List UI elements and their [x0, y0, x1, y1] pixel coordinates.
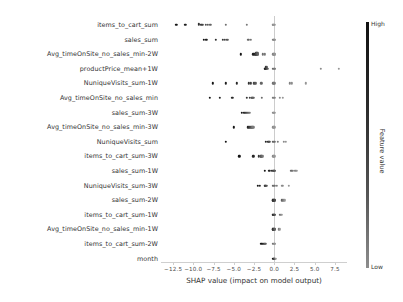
shap-point [240, 53, 242, 55]
feature-label: sales_sum [0, 36, 158, 44]
feature-label: month [0, 255, 158, 263]
colorbar-high-label: High [371, 20, 385, 27]
x-tick-label: −7.5 [206, 266, 220, 272]
shap-point [274, 68, 276, 70]
shap-point [275, 184, 277, 186]
shap-point [245, 24, 247, 26]
shap-point [282, 97, 284, 99]
feature-value-colorbar [366, 22, 369, 268]
feature-label: NuniqueVisits_sum-1W [0, 79, 158, 87]
shap-point [250, 82, 252, 84]
shap-point [224, 141, 226, 143]
shap-point [266, 68, 268, 70]
shap-point [231, 97, 233, 99]
shap-point [320, 68, 322, 70]
shap-point [238, 155, 240, 157]
x-tick-label: −5.0 [227, 266, 241, 272]
shap-point [274, 199, 276, 201]
feature-label: Avg_timeOnSite_no_sales_min-3W [0, 123, 158, 131]
shap-point [224, 82, 226, 84]
x-tick-label: 5.0 [310, 266, 320, 272]
shap-point [273, 82, 275, 84]
x-tick-label: −10.0 [184, 266, 202, 272]
shap-point [276, 141, 278, 143]
feature-label: Avg_timeOnSite_no_sales_min-1W [0, 225, 158, 233]
feature-label: Avg_timeOnSite_no_sales_min-2W [0, 50, 158, 58]
beeswarm-plot-area [161, 16, 347, 262]
feature-label: items_to_cart_sum-3W [0, 152, 158, 160]
feature-label: items_to_cart_sum-2W [0, 240, 158, 248]
colorbar-title: Feature value [378, 128, 386, 173]
shap-point [227, 38, 229, 40]
shap-point [249, 111, 251, 113]
shap-point [263, 53, 265, 55]
shap-point [184, 24, 186, 26]
shap-point [261, 97, 263, 99]
x-tick-mark [294, 262, 295, 265]
shap-summary-plot-figure: items_to_cart_sumsales_sumAvg_timeOnSite… [0, 0, 403, 302]
shap-point [338, 68, 340, 70]
shap-point [273, 97, 275, 99]
x-tick-label: 7.5 [330, 266, 340, 272]
shap-point [245, 97, 247, 99]
shap-point [263, 170, 265, 172]
shap-point [219, 97, 221, 99]
colorbar-low-label: Low [371, 263, 383, 270]
shap-point [273, 155, 275, 157]
shap-point [273, 24, 275, 26]
shap-point [279, 228, 281, 230]
feature-label: sales_sum-1W [0, 167, 158, 175]
x-tick-mark [193, 262, 194, 265]
shap-point [257, 53, 259, 55]
feature-label: productPrice_mean+1W [0, 65, 158, 73]
shap-point [268, 141, 270, 143]
shap-point [283, 199, 285, 201]
feature-label: sales_sum-2W [0, 196, 158, 204]
shap-point [212, 82, 214, 84]
shap-point [273, 126, 275, 128]
shap-point [273, 141, 275, 143]
x-axis-title: SHAP value (impact on model output) [161, 276, 347, 285]
feature-label: NuniqueVisits_sum [0, 138, 158, 146]
x-tick-label: 0.0 [269, 266, 279, 272]
shap-point [274, 214, 276, 216]
x-tick-mark [335, 262, 336, 265]
shap-point [264, 243, 266, 245]
shap-point [266, 184, 268, 186]
x-tick-mark [315, 262, 316, 265]
shap-point [260, 82, 262, 84]
shap-point [254, 82, 256, 84]
shap-point [274, 53, 276, 55]
feature-label: Avg_timeOnSite_no_sales_min [0, 94, 158, 102]
shap-point [274, 243, 276, 245]
feature-label-axis: items_to_cart_sumsales_sumAvg_timeOnSite… [0, 0, 158, 302]
shap-point [279, 97, 281, 99]
feature-label: items_to_cart_sum-1W [0, 211, 158, 219]
shap-point [305, 82, 307, 84]
x-tick-label: −2.5 [247, 266, 261, 272]
shap-point [205, 38, 207, 40]
shap-point [262, 155, 264, 157]
shap-point [224, 24, 226, 26]
shap-point [274, 228, 276, 230]
shap-point [274, 170, 276, 172]
shap-point [275, 257, 277, 259]
x-tick-mark [234, 262, 235, 265]
shap-point [233, 126, 235, 128]
feature-label: items_to_cart_sum [0, 21, 158, 29]
x-tick-mark [254, 262, 255, 265]
shap-point [250, 38, 252, 40]
x-tick-mark [214, 262, 215, 265]
shap-point [175, 24, 177, 26]
shap-point [288, 184, 290, 186]
shap-point [252, 126, 254, 128]
shap-point [280, 214, 282, 216]
shap-point [284, 141, 286, 143]
shap-point [252, 155, 254, 157]
x-tick-mark [274, 262, 275, 265]
shap-point [274, 38, 276, 40]
x-tick-mark [173, 262, 174, 265]
shap-point [208, 97, 210, 99]
shap-point [258, 184, 260, 186]
shap-point [273, 111, 275, 113]
